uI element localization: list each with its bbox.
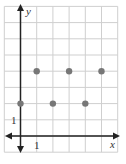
data-point: [50, 100, 56, 106]
data-point: [98, 68, 104, 74]
y-tick-label: 1: [11, 114, 17, 126]
x-tick-label: 1: [34, 139, 40, 151]
x-axis-label: x: [109, 138, 115, 150]
grid-lines: [4, 6, 117, 152]
data-point: [34, 68, 40, 74]
y-axis-up-arrow-icon: [17, 4, 24, 11]
x-axis-left-arrow-icon: [5, 133, 12, 140]
y-axis-label: y: [25, 5, 31, 17]
coordinate-plane: y x 1 1: [0, 0, 126, 164]
data-point: [66, 68, 72, 74]
data-point: [17, 100, 23, 106]
axes: [5, 4, 120, 153]
data-point: [82, 100, 88, 106]
